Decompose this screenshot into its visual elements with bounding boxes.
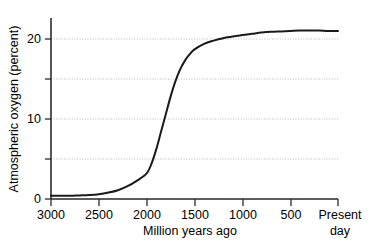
oxygen-chart-figure: 0 10 20 3000 2500 2000 1500 1000 500 Pre… <box>0 0 373 249</box>
chart-plot-area: 0 10 20 3000 2500 2000 1500 1000 500 Pre… <box>0 0 373 249</box>
x-tick-label-3000: 3000 <box>37 208 65 222</box>
x-tick-label-2000: 2000 <box>133 208 161 222</box>
y-tick-label-20: 20 <box>27 32 41 46</box>
y-axis-title: Atmospheric oxygen (percent) <box>7 26 21 193</box>
x-tick-label-1500: 1500 <box>181 208 209 222</box>
y-tick-label-10: 10 <box>27 112 41 126</box>
x-tick-label-1000: 1000 <box>229 208 257 222</box>
y-tick-label-0: 0 <box>34 192 41 206</box>
x-tick-label-2500: 2500 <box>85 208 113 222</box>
x-tick-label-500: 500 <box>281 208 302 222</box>
x-tick-label-present-day: day <box>330 224 351 238</box>
x-tick-label-present: Present <box>318 208 362 222</box>
x-axis-title: Million years ago <box>143 224 237 238</box>
